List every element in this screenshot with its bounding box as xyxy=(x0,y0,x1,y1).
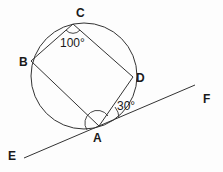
label-f: F xyxy=(203,92,210,106)
angle-daf-value: 30° xyxy=(117,99,135,113)
label-a: A xyxy=(93,131,102,145)
geometry-diagram: C B D A F E 100° 30° xyxy=(0,0,223,172)
label-b: B xyxy=(19,55,28,69)
label-c: C xyxy=(76,6,85,20)
angle-arc-c xyxy=(66,30,80,33)
label-e: E xyxy=(8,149,16,163)
tangent-line-ef xyxy=(24,85,195,158)
label-d: D xyxy=(136,71,145,85)
angle-c-value: 100° xyxy=(60,36,85,50)
